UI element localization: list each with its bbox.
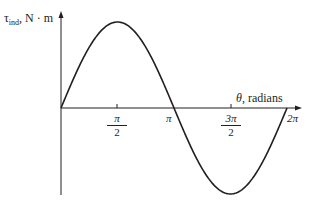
x-tick-label-pi-over-2: π 2 — [107, 113, 127, 138]
y-axis-label-subscript: ind — [9, 18, 19, 27]
x-tick-label-3pi-over-2: 3π 2 — [221, 113, 241, 138]
y-axis-label: τind, N · m — [4, 12, 53, 27]
y-axis-label-unit: , N · m — [19, 11, 53, 25]
x-tick-label-2pi: 2π — [287, 113, 298, 124]
x-tick-label-pi: π — [166, 113, 172, 124]
y-axis-arrow-icon — [59, 11, 64, 18]
chart-canvas — [0, 0, 314, 210]
x-axis-label: θ, radians — [236, 92, 283, 104]
x-axis-label-unit: , radians — [242, 91, 283, 105]
x-axis-arrow-icon — [295, 106, 302, 111]
